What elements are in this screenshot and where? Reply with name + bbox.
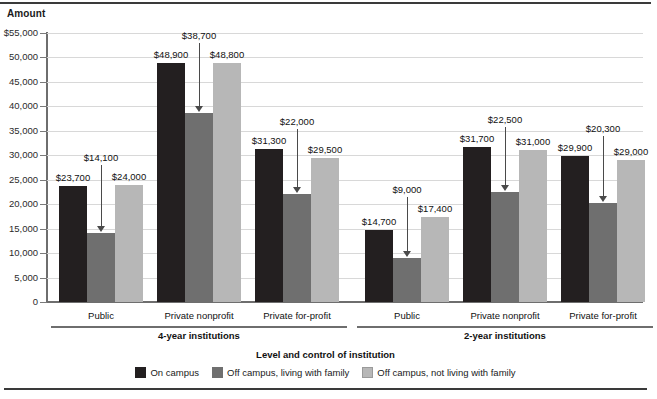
bar-off-campus-living-with-family-public-4-year bbox=[87, 233, 115, 302]
bar-value-label: $14,100 bbox=[56, 152, 146, 163]
y-axis-tick-label: 20,000 bbox=[0, 198, 38, 209]
bar-off-campus-living-with-family-private-nonprofit-4-year bbox=[185, 113, 213, 302]
bar-value-label: $9,000 bbox=[362, 184, 452, 195]
bar-on-campus-private-nonprofit-4-year bbox=[157, 63, 185, 302]
bar-on-campus-private-for-profit-2-year bbox=[561, 156, 589, 302]
y-axis-tick bbox=[40, 204, 47, 205]
callout-arrow-head bbox=[403, 251, 411, 257]
bar-value-label: $29,500 bbox=[280, 144, 370, 155]
group-bracket-rule bbox=[51, 326, 347, 328]
y-axis-tick bbox=[40, 278, 47, 279]
bar-off-campus-living-with-family-private-nonprofit-2-year bbox=[491, 192, 519, 302]
group-label: 4-year institutions bbox=[51, 330, 347, 341]
bar-value-label: $20,300 bbox=[558, 123, 648, 134]
y-axis-tick-label: $55,000 bbox=[0, 27, 38, 38]
bar-value-label: $14,700 bbox=[334, 216, 424, 227]
figure-caption bbox=[10, 391, 641, 399]
callout-arrow-line bbox=[297, 129, 298, 187]
y-axis-tick bbox=[40, 229, 47, 230]
x-axis-category-label: Private nonprofit bbox=[144, 310, 254, 321]
y-axis-tick-label: 5,000 bbox=[0, 272, 38, 283]
x-axis-category-label: Private nonprofit bbox=[450, 310, 560, 321]
bar-off-campus-not-living-with-family-private-for-profit-2-year bbox=[617, 160, 645, 302]
plot-area bbox=[47, 33, 643, 302]
y-axis-tick bbox=[40, 33, 47, 34]
legend-item: On campus bbox=[135, 367, 199, 378]
y-axis-tick bbox=[40, 57, 47, 58]
bar-off-campus-not-living-with-family-private-nonprofit-4-year bbox=[213, 63, 241, 302]
legend-swatch-icon bbox=[135, 367, 146, 378]
x-axis-category-label: Private for-profit bbox=[548, 310, 657, 321]
y-axis-tick-label: 10,000 bbox=[0, 247, 38, 258]
callout-arrow-head bbox=[501, 185, 509, 191]
callout-arrow-head bbox=[97, 226, 105, 232]
bar-value-label: $22,000 bbox=[252, 116, 342, 127]
x-axis-category-label: Private for-profit bbox=[242, 310, 352, 321]
group-label: 2-year institutions bbox=[357, 330, 653, 341]
bar-off-campus-not-living-with-family-private-nonprofit-2-year bbox=[519, 150, 547, 302]
y-axis-tick bbox=[40, 106, 47, 107]
x-axis-title: Level and control of institution bbox=[0, 349, 651, 360]
y-axis-tick-label: 0 bbox=[0, 296, 38, 307]
y-axis-tick-label: 15,000 bbox=[0, 223, 38, 234]
callout-arrow-line bbox=[603, 136, 604, 196]
legend-label: On campus bbox=[150, 367, 199, 378]
callout-arrow-head bbox=[599, 196, 607, 202]
legend-item: Off campus, living with family bbox=[212, 367, 349, 378]
y-axis-tick bbox=[40, 302, 47, 303]
bar-value-label: $48,800 bbox=[182, 49, 272, 60]
y-axis-tick-label: 45,000 bbox=[0, 76, 38, 87]
chart-legend: On campusOff campus, living with familyO… bbox=[0, 367, 651, 378]
bar-value-label: $29,000 bbox=[586, 146, 657, 157]
bar-off-campus-not-living-with-family-private-for-profit-4-year bbox=[311, 158, 339, 302]
legend-label: Off campus, not living with family bbox=[377, 367, 515, 378]
y-axis-tick-label: 30,000 bbox=[0, 149, 38, 160]
bar-on-campus-public-4-year bbox=[59, 186, 87, 302]
callout-arrow-head bbox=[293, 187, 301, 193]
legend-swatch-icon bbox=[362, 367, 373, 378]
y-axis-tick bbox=[40, 253, 47, 254]
bar-off-campus-not-living-with-family-public-4-year bbox=[115, 185, 143, 302]
top-divider bbox=[0, 2, 651, 4]
y-axis-tick-label: 40,000 bbox=[0, 100, 38, 111]
callout-arrow-head bbox=[195, 106, 203, 112]
y-axis-title: Amount bbox=[7, 8, 45, 19]
x-axis-category-label: Public bbox=[352, 310, 462, 321]
bar-on-campus-private-for-profit-4-year bbox=[255, 149, 283, 302]
bar-on-campus-private-nonprofit-2-year bbox=[463, 147, 491, 302]
bar-off-campus-living-with-family-private-for-profit-4-year bbox=[283, 194, 311, 302]
y-axis-tick bbox=[40, 131, 47, 132]
y-axis-tick-label: 50,000 bbox=[0, 51, 38, 62]
group-bracket-rule bbox=[357, 326, 653, 328]
bar-value-label: $17,400 bbox=[390, 203, 480, 214]
y-axis-tick bbox=[40, 155, 47, 156]
bar-value-label: $38,700 bbox=[154, 30, 244, 41]
bar-value-label: $22,500 bbox=[460, 114, 550, 125]
y-axis-tick-label: 35,000 bbox=[0, 125, 38, 136]
legend-swatch-icon bbox=[212, 367, 223, 378]
bar-off-campus-living-with-family-private-for-profit-2-year bbox=[589, 203, 617, 302]
bar-off-campus-not-living-with-family-public-2-year bbox=[421, 217, 449, 302]
legend-item: Off campus, not living with family bbox=[362, 367, 515, 378]
bar-off-campus-living-with-family-public-2-year bbox=[393, 258, 421, 302]
legend-label: Off campus, living with family bbox=[227, 367, 349, 378]
bottom-divider bbox=[4, 388, 647, 390]
bar-on-campus-public-2-year bbox=[365, 230, 393, 302]
y-axis-tick bbox=[40, 82, 47, 83]
bar-value-label: $24,000 bbox=[84, 171, 174, 182]
x-axis-category-label: Public bbox=[46, 310, 156, 321]
